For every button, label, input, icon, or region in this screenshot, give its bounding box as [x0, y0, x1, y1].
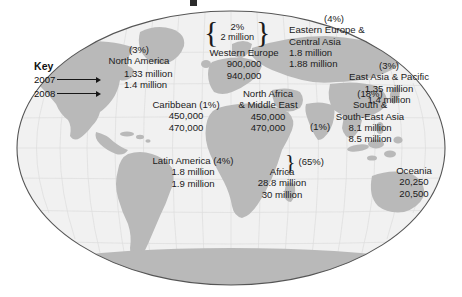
western-europe-value-2008: 940,000	[192, 70, 296, 81]
world-map-infographic: Key 2007 2008 (3%) North America 1.33 mi…	[0, 0, 462, 297]
south-asia-value-2007: 8.1 million	[316, 122, 424, 133]
south-asia-percent: (18%)	[316, 88, 424, 99]
africa-value-2008: 30 million	[235, 189, 329, 200]
brace-right-africa: }	[285, 151, 296, 173]
region-label-north-africa-middle-east: North Africa & Middle East 450,000 470,0…	[222, 88, 314, 133]
western-europe-brace-value: 2 million	[220, 32, 254, 43]
oceania-name: Oceania	[378, 165, 450, 176]
north-africa-value-2008: 470,000	[222, 122, 314, 133]
western-europe-name: Western Europe	[192, 47, 296, 58]
east-asia-percent: (3%)	[330, 60, 448, 71]
north-africa-name-line2: & Middle East	[222, 99, 314, 110]
eastern-europe-name-line1: Eastern Europe &	[289, 24, 379, 35]
eastern-europe-percent: (4%)	[289, 13, 379, 24]
south-asia-value-2008: 8.5 million	[316, 133, 424, 144]
western-europe-brace-percent: 2%	[220, 21, 254, 32]
east-asia-name: East Asia & Pacific	[330, 71, 448, 82]
eastern-europe-name-line2: Central Asia	[289, 36, 379, 47]
region-label-south-south-east-asia: (18%) South & South-East Asia 8.1 millio…	[316, 88, 424, 144]
western-europe-value-2007: 900,000	[192, 58, 296, 69]
region-label-western-europe: Western Europe 900,000 940,000	[192, 47, 296, 81]
key-year-2008: 2008	[34, 88, 55, 99]
oceania-value-2008: 20,500	[378, 188, 450, 199]
north-america-value-2007: 1.33 million	[124, 68, 173, 79]
region-label-western-europe-brace: { 2% 2 million }	[204, 17, 271, 47]
south-asia-name-line2: South-East Asia	[316, 111, 424, 122]
north-america-percent: (3%)	[86, 44, 192, 55]
key-arrow-line-2008	[57, 93, 97, 94]
key-row-2008: 2008	[34, 87, 101, 100]
region-percent-africa: } (65%)	[285, 151, 324, 173]
africa-percent: (65%)	[299, 156, 324, 167]
cropped-title-mark	[190, 0, 197, 6]
africa-value-2007: 28.8 million	[235, 177, 329, 188]
eastern-europe-value-2007: 1.8 million	[289, 47, 379, 58]
north-africa-value-2007: 450,000	[222, 111, 314, 122]
brace-left-western-europe: {	[204, 17, 218, 47]
region-label-oceania: Oceania 20,250 20,500	[378, 165, 450, 199]
oceania-value-2007: 20,250	[378, 176, 450, 187]
region-values-north-america: 1.33 million 1.4 million	[124, 68, 173, 91]
north-africa-name-line1: North Africa	[222, 88, 314, 99]
key-row-2007: 2007	[34, 73, 101, 86]
key-year-2007: 2007	[34, 74, 55, 85]
region-label-north-america: (3%) North America	[86, 44, 192, 67]
land-new-zealand	[435, 202, 450, 223]
north-america-value-2008: 1.4 million	[124, 79, 173, 90]
key-arrow-line-2007	[57, 79, 97, 80]
north-america-name: North America	[86, 55, 192, 66]
brace-right-western-europe: }	[256, 17, 270, 47]
south-asia-name-line1: South &	[316, 99, 424, 110]
latin-america-name: Latin America (4%)	[131, 155, 255, 166]
